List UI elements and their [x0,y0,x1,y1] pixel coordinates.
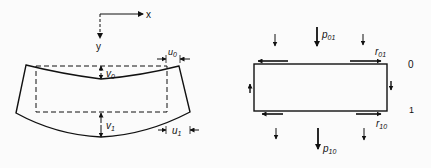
v0-label: v0 [106,68,115,80]
r10-label: r10 [376,118,387,130]
bottom-edge-label: 1 [409,105,414,115]
coordinate-axes: x y [96,9,151,52]
u0-label: u0 [168,47,177,58]
deformed-beam-figure: x y v0 v1 u0 u1 [16,9,199,137]
stress-element-figure: p01 r01 r10 p10 0 1 [250,27,414,155]
u1-label: u1 [172,125,182,137]
top-edge-label: 0 [408,59,414,70]
element-outline [254,64,387,111]
x-axis-label: x [146,9,151,20]
deformed-outline [16,65,190,137]
p10-label: p10 [322,143,336,155]
p01-label: p01 [321,29,335,41]
y-axis-label: y [96,41,101,52]
v1-label: v1 [106,120,115,132]
r01-label: r01 [375,46,386,58]
diagram-canvas: x y v0 v1 u0 u1 [0,0,431,168]
